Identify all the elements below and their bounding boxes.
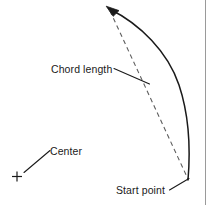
arc-diagram-figure: Chord length Center Start point: [0, 0, 212, 205]
plus-marker-icon: [12, 172, 22, 182]
start-point-label: Start point: [116, 184, 165, 196]
diagram-canvas: [0, 0, 212, 205]
chord-line: [110, 11, 188, 179]
start-point-leader-line: [170, 179, 190, 191]
chord-length-leader-line: [114, 69, 150, 85]
center-leader-line: [24, 151, 50, 173]
chord-length-label: Chord length: [51, 63, 112, 75]
arrowhead-icon: [106, 6, 119, 16]
center-label: Center: [50, 145, 82, 157]
